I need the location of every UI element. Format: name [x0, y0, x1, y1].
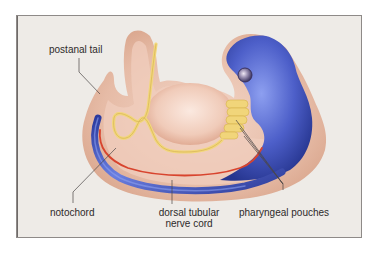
label-notochord: notochord	[50, 207, 94, 218]
leader-postanal-tail	[79, 58, 100, 94]
label-pharyngeal-pouches: pharyngeal pouches	[239, 207, 329, 218]
label-dorsal-tubular-nerve-cord: dorsal tubular nerve cord	[137, 207, 241, 229]
label-nerve-cord-line2: nerve cord	[137, 218, 241, 229]
eye	[238, 68, 252, 82]
label-nerve-cord-line1: dorsal tubular	[137, 207, 241, 218]
label-postanal-tail: postanal tail	[49, 44, 102, 55]
